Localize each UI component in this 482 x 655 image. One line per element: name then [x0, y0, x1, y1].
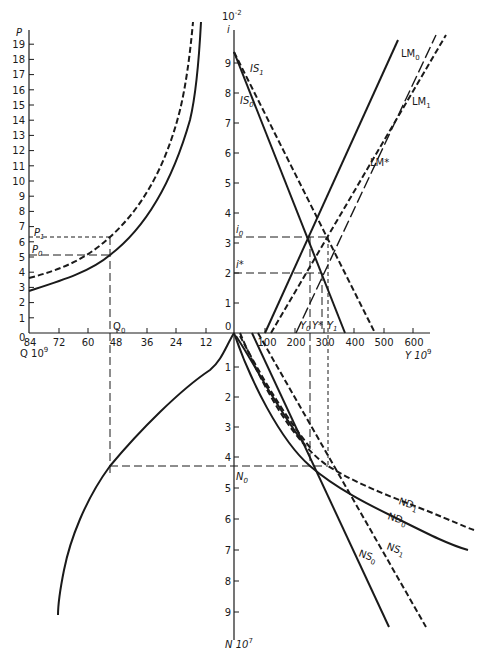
lm1-curve — [271, 35, 446, 333]
svg-text:200: 200 — [286, 337, 305, 348]
ns0-curve — [252, 333, 389, 627]
i-axis-tick-labels: 12 34 56 78 9 — [225, 58, 231, 309]
nd1-curve — [240, 333, 474, 530]
lmstar-label: LM* — [370, 157, 389, 168]
svg-text:600: 600 — [404, 337, 423, 348]
n-axis-tick-labels: 12 34 56 78 9 — [225, 362, 231, 618]
nd1-label: ND1 — [396, 495, 419, 514]
svg-text:5: 5 — [225, 178, 231, 189]
svg-text:4: 4 — [225, 452, 231, 463]
istar-label: i* — [236, 259, 244, 270]
ns1-curve — [258, 333, 426, 627]
p1-label: P1 — [34, 227, 45, 241]
svg-text:500: 500 — [374, 337, 393, 348]
y1-label: Y1 — [327, 320, 338, 333]
price-curve-dashed — [29, 22, 193, 278]
svg-text:2: 2 — [19, 297, 25, 308]
origin-zero: 0 — [225, 321, 231, 332]
ystar-label: Y* — [312, 320, 323, 331]
nd-inner-dashed — [240, 336, 312, 450]
svg-text:6: 6 — [225, 514, 231, 525]
price-curve-solid — [29, 22, 201, 291]
svg-text:4: 4 — [19, 267, 25, 278]
i-axis-exponent: 10-2 — [222, 9, 242, 22]
svg-text:7: 7 — [225, 545, 231, 556]
q-axis-label: Q 109 — [20, 346, 48, 359]
svg-text:15: 15 — [12, 100, 25, 111]
svg-text:3: 3 — [19, 282, 25, 293]
q-origin-zero: 0 — [19, 332, 25, 343]
svg-text:48: 48 — [110, 337, 123, 348]
i-axis-label: i — [227, 24, 230, 35]
nd0-label: ND0 — [385, 510, 408, 529]
n-axis-ticks — [234, 367, 239, 612]
svg-text:18: 18 — [12, 54, 25, 65]
i0-label: i0 — [236, 224, 244, 238]
svg-text:2: 2 — [225, 268, 231, 279]
svg-text:5: 5 — [19, 252, 25, 263]
svg-text:8: 8 — [225, 576, 231, 587]
svg-text:9: 9 — [225, 58, 231, 69]
svg-text:16: 16 — [12, 85, 25, 96]
q-axis-ticks — [59, 328, 206, 333]
svg-text:7: 7 — [225, 118, 231, 129]
production-function-curve — [58, 333, 234, 615]
p0-label: P0 — [32, 244, 43, 258]
p-axis-tick-labels: 12 34 56 78 910 1112 1314 1516 1718 19 — [12, 39, 25, 324]
q-axis-tick-labels: 8472 6048 3624 12 — [24, 337, 213, 348]
svg-text:72: 72 — [53, 337, 66, 348]
svg-text:12: 12 — [12, 145, 25, 156]
y-axis-tick-labels: 100200 300400 500600 — [257, 337, 423, 348]
ns1-label: NS1 — [384, 541, 406, 560]
p-axis-label: P — [16, 27, 23, 38]
svg-text:400: 400 — [345, 337, 364, 348]
svg-text:2: 2 — [225, 392, 231, 403]
svg-text:3: 3 — [225, 422, 231, 433]
svg-text:9: 9 — [19, 191, 25, 202]
four-quadrant-chart: 12 34 56 78 910 1112 1314 1516 1718 19 P… — [0, 0, 482, 655]
svg-text:60: 60 — [82, 337, 95, 348]
n0-label: N0 — [236, 471, 248, 485]
lm0-label: LM0 — [401, 48, 420, 62]
svg-text:1: 1 — [225, 298, 231, 309]
lm0-curve — [265, 40, 398, 333]
svg-text:12: 12 — [200, 337, 213, 348]
svg-text:6: 6 — [19, 237, 25, 248]
svg-text:14: 14 — [12, 115, 25, 126]
svg-text:13: 13 — [12, 130, 25, 141]
svg-text:8: 8 — [19, 206, 25, 217]
svg-text:17: 17 — [12, 69, 25, 80]
is1-label: IS1 — [250, 63, 264, 77]
svg-text:11: 11 — [12, 161, 25, 172]
svg-text:84: 84 — [24, 337, 37, 348]
nd-inner-solid — [236, 336, 305, 445]
svg-text:1: 1 — [19, 313, 25, 324]
lm1-label: LM1 — [412, 96, 431, 110]
y-axis-label: Y 109 — [405, 348, 431, 361]
y-axis-ticks — [265, 328, 413, 333]
y0-label: Y0 — [300, 320, 311, 333]
lmstar-curve — [296, 35, 436, 333]
svg-text:4: 4 — [225, 208, 231, 219]
svg-text:5: 5 — [225, 483, 231, 494]
svg-text:24: 24 — [170, 337, 183, 348]
nd0-curve — [234, 333, 468, 550]
svg-text:7: 7 — [19, 221, 25, 232]
svg-text:300: 300 — [315, 337, 334, 348]
svg-text:19: 19 — [12, 39, 25, 50]
svg-text:6: 6 — [225, 148, 231, 159]
svg-text:8: 8 — [225, 88, 231, 99]
svg-text:9: 9 — [225, 607, 231, 618]
svg-text:36: 36 — [141, 337, 154, 348]
svg-text:1: 1 — [225, 362, 231, 373]
svg-text:10: 10 — [12, 176, 25, 187]
n-axis-label: N 107 — [225, 637, 253, 650]
svg-text:100: 100 — [257, 337, 276, 348]
svg-text:3: 3 — [225, 238, 231, 249]
